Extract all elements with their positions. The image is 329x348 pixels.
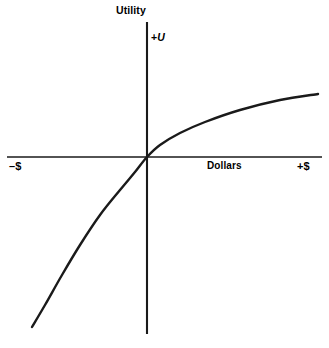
y-axis-title-utility: Utility: [116, 5, 146, 16]
x-axis-title-dollars: Dollars: [207, 161, 242, 171]
utility-variable-symbol: U: [157, 31, 165, 43]
utility-curve-figure: Utility +U –$ Dollars +$: [0, 0, 329, 348]
y-axis-positive-label: +U: [147, 32, 165, 43]
x-axis-negative-label: –$: [9, 161, 21, 172]
utility-plot-svg: [0, 0, 329, 348]
utility-curve-path: [32, 94, 318, 327]
x-axis-positive-label: +$: [297, 161, 310, 172]
